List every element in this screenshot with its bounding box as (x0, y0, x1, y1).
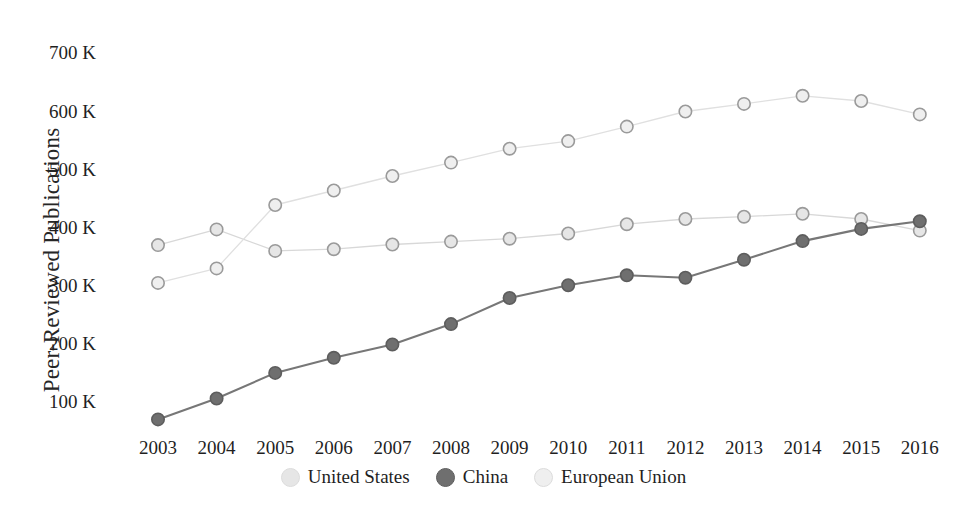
legend-label: European Union (561, 466, 686, 488)
data-point-marker (679, 213, 691, 225)
data-point-marker (210, 223, 222, 235)
data-point-marker (679, 105, 691, 117)
data-point-marker (152, 239, 164, 251)
legend-item[interactable]: United States (281, 466, 410, 488)
data-point-marker (269, 199, 281, 211)
legend-label: China (463, 466, 508, 488)
data-point-marker (152, 277, 164, 289)
series-china (152, 215, 926, 425)
data-point-marker (855, 223, 867, 235)
data-point-marker (621, 218, 633, 230)
data-point-marker (152, 413, 164, 425)
legend-item[interactable]: China (436, 466, 508, 488)
data-point-marker (796, 208, 808, 220)
data-point-marker (621, 120, 633, 132)
data-point-marker (269, 245, 281, 257)
series-european-union (152, 90, 926, 289)
data-point-marker (796, 235, 808, 247)
data-point-marker (328, 352, 340, 364)
legend-swatch-icon (534, 468, 553, 487)
data-point-marker (621, 269, 633, 281)
series-united-states (152, 208, 926, 258)
plot-area (0, 0, 967, 523)
legend-item[interactable]: European Union (534, 466, 686, 488)
chart-legend: United StatesChinaEuropean Union (0, 466, 967, 488)
data-point-marker (503, 292, 515, 304)
chart-container: Peer-Reviewed Publications 100 K200 K300… (0, 0, 967, 523)
data-point-marker (738, 211, 750, 223)
data-point-marker (386, 238, 398, 250)
legend-swatch-icon (281, 468, 300, 487)
data-point-marker (386, 338, 398, 350)
data-point-marker (386, 170, 398, 182)
data-point-marker (445, 156, 457, 168)
data-point-marker (914, 215, 926, 227)
data-point-marker (328, 243, 340, 255)
data-point-marker (503, 233, 515, 245)
legend-label: United States (308, 466, 410, 488)
data-point-marker (210, 392, 222, 404)
data-point-marker (562, 279, 574, 291)
legend-swatch-icon (436, 468, 455, 487)
data-point-marker (562, 135, 574, 147)
data-point-marker (738, 254, 750, 266)
data-point-marker (445, 235, 457, 247)
data-point-marker (914, 108, 926, 120)
data-point-marker (328, 184, 340, 196)
data-point-marker (210, 262, 222, 274)
data-point-marker (562, 227, 574, 239)
data-point-marker (269, 367, 281, 379)
data-point-marker (855, 95, 867, 107)
data-point-marker (738, 98, 750, 110)
data-point-marker (503, 143, 515, 155)
data-point-marker (445, 318, 457, 330)
data-point-marker (796, 90, 808, 102)
data-point-marker (679, 272, 691, 284)
